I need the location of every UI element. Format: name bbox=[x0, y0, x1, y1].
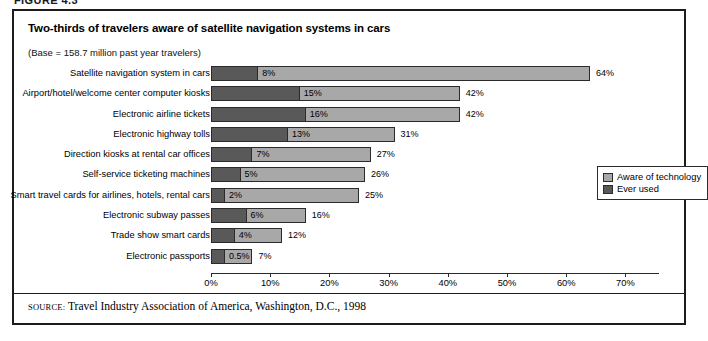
bar-value-ever-used: 5% bbox=[245, 169, 258, 179]
bar-category-label: Smart travel cards for airlines, hotels,… bbox=[0, 190, 210, 200]
bar-ever-used bbox=[211, 107, 306, 122]
bar-row: Electronic passports0.5%7% bbox=[14, 248, 684, 268]
bar-value-aware: 64% bbox=[596, 68, 614, 78]
x-axis-tick-label: 50% bbox=[498, 278, 517, 288]
bar-category-label: Trade show smart cards bbox=[0, 230, 210, 240]
bar-value-aware: 7% bbox=[258, 251, 271, 261]
legend-swatch-icon-aware bbox=[603, 173, 613, 182]
legend-item-ever-used: Ever used bbox=[603, 183, 701, 195]
figure-caption: FIGURE 4.3 bbox=[14, 0, 78, 5]
x-axis-tick-label: 0% bbox=[204, 278, 217, 288]
bar-ever-used bbox=[211, 188, 225, 203]
bar-row: Direction kiosks at rental car offices7%… bbox=[14, 146, 684, 166]
bar-category-label: Electronic subway passes bbox=[0, 210, 210, 220]
bar-value-ever-used: 4% bbox=[239, 230, 252, 240]
bar-value-ever-used: 7% bbox=[256, 149, 269, 159]
bar-value-aware: 27% bbox=[377, 149, 395, 159]
x-axis-tick bbox=[389, 273, 390, 277]
bar-row: Trade show smart cards4%12% bbox=[14, 227, 684, 247]
x-axis-tick bbox=[211, 273, 212, 277]
legend-label-aware: Aware of technology bbox=[617, 172, 701, 182]
bar-ever-used bbox=[211, 208, 247, 223]
bar-category-label: Satellite navigation system in cars bbox=[0, 68, 210, 78]
x-axis-tick-label: 30% bbox=[379, 278, 398, 288]
bar-ever-used bbox=[211, 249, 225, 264]
bar-value-aware: 16% bbox=[312, 210, 330, 220]
bar-ever-used bbox=[211, 86, 300, 101]
bar-ever-used bbox=[211, 228, 235, 243]
bar-value-ever-used: 13% bbox=[292, 129, 310, 139]
bar-row: Electronic subway passes6%16% bbox=[14, 207, 684, 227]
bar-ever-used bbox=[211, 66, 258, 81]
bar-row: Electronic highway tolls13%31% bbox=[14, 126, 684, 146]
legend-label-ever-used: Ever used bbox=[617, 184, 659, 194]
bar-value-aware: 26% bbox=[371, 169, 389, 179]
chart-legend: Aware of technology Ever used bbox=[597, 166, 708, 200]
bar-category-label: Self-service ticketing machines bbox=[0, 169, 210, 179]
chart-title: Two-thirds of travelers aware of satelli… bbox=[28, 22, 390, 34]
bar-value-ever-used: 16% bbox=[310, 109, 328, 119]
bar-value-aware: 25% bbox=[365, 190, 383, 200]
bar-category-label: Electronic airline tickets bbox=[0, 109, 210, 119]
x-axis-tick-label: 60% bbox=[557, 278, 576, 288]
bar-value-aware: 42% bbox=[466, 109, 484, 119]
x-axis-tick-label: 10% bbox=[261, 278, 280, 288]
bar-ever-used bbox=[211, 167, 241, 182]
source-text: Travel Industry Association of America, … bbox=[68, 300, 366, 312]
bar-value-ever-used: 8% bbox=[262, 68, 275, 78]
bar-row: Electronic airline tickets16%42% bbox=[14, 106, 684, 126]
bar-value-ever-used: 6% bbox=[251, 210, 264, 220]
bar-ever-used bbox=[211, 147, 252, 162]
bar-value-aware: 31% bbox=[401, 129, 419, 139]
bar-row: Self-service ticketing machines5%26% bbox=[14, 166, 684, 186]
bar-category-label: Electronic highway tolls bbox=[0, 129, 210, 139]
bar-rows: Satellite navigation system in cars8%64%… bbox=[14, 65, 684, 268]
legend-swatch-icon-ever-used bbox=[603, 185, 613, 194]
bar-row: Smart travel cards for airlines, hotels,… bbox=[14, 187, 684, 207]
x-axis-tick bbox=[507, 273, 508, 277]
x-axis-line bbox=[211, 273, 659, 274]
bar-category-label: Direction kiosks at rental car offices bbox=[0, 149, 210, 159]
bar-ever-used bbox=[211, 127, 288, 142]
legend-item-aware: Aware of technology bbox=[603, 171, 701, 183]
bar-row: Airport/hotel/welcome center computer ki… bbox=[14, 85, 684, 105]
bar-value-ever-used: 15% bbox=[304, 88, 322, 98]
bar-value-aware: 42% bbox=[466, 88, 484, 98]
bar-value-ever-used: 0.5% bbox=[229, 251, 250, 261]
figure-frame: Two-thirds of travelers aware of satelli… bbox=[12, 9, 686, 325]
x-axis-tick-label: 40% bbox=[438, 278, 457, 288]
bar-category-label: Airport/hotel/welcome center computer ki… bbox=[0, 88, 210, 98]
x-axis-tick bbox=[625, 273, 626, 277]
x-axis-tick bbox=[566, 273, 567, 277]
x-axis-tick bbox=[448, 273, 449, 277]
x-axis-tick-label: 20% bbox=[320, 278, 339, 288]
x-axis-tick bbox=[329, 273, 330, 277]
bar-value-aware: 12% bbox=[288, 230, 306, 240]
source-keyword: SOURCE: bbox=[28, 302, 65, 312]
bar-category-label: Electronic passports bbox=[0, 251, 210, 261]
source-divider bbox=[14, 293, 684, 294]
bar-value-ever-used: 2% bbox=[229, 190, 242, 200]
chart-base-note: (Base = 158.7 million past year traveler… bbox=[28, 47, 201, 58]
x-axis-tick bbox=[270, 273, 271, 277]
source-line: SOURCE: Travel Industry Association of A… bbox=[28, 300, 366, 312]
x-axis-tick-label: 70% bbox=[616, 278, 635, 288]
chart-plot-area: Satellite navigation system in cars8%64%… bbox=[14, 65, 684, 280]
bar-row: Satellite navigation system in cars8%64% bbox=[14, 65, 684, 85]
